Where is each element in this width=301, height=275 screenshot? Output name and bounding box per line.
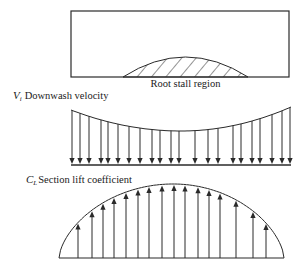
wing-distribution-diagram: Root stall region ViDownwash velocity CL… [0, 0, 301, 275]
arrow-head-down-icon [98, 158, 103, 164]
lift-subscript: L [32, 179, 37, 187]
lift-title: CLSection lift coefficient [26, 173, 132, 187]
lift-arrow [195, 187, 200, 258]
lift-arrow [233, 201, 238, 258]
arrow-head-down-icon [287, 158, 292, 164]
arrow-head-up-icon [206, 190, 211, 196]
arrow-head-up-icon [111, 198, 116, 204]
arrow-head-up-icon [135, 189, 140, 195]
downwash-arrow [98, 120, 103, 164]
arrow-head-up-icon [146, 187, 151, 193]
arrow-head-down-icon [192, 158, 197, 164]
arrow-head-down-icon [249, 158, 254, 164]
arrow-head-down-icon [126, 158, 131, 164]
arrow-head-down-icon [115, 158, 120, 164]
lift-arrows [75, 185, 268, 258]
lift-arrow [263, 224, 268, 258]
downwash-arrow [77, 113, 82, 164]
root-stall-region-label: Root stall region [151, 78, 222, 89]
arrow-head-down-icon [176, 158, 181, 164]
wing-planform: Root stall region [71, 11, 289, 89]
downwash-arrow [230, 126, 235, 164]
arrow-head-up-icon [182, 186, 187, 192]
downwash-arrow [69, 110, 74, 164]
lift-arrow [159, 185, 164, 258]
downwash-arrow [238, 124, 243, 164]
lift-distribution: CLSection lift coefficient [26, 173, 284, 258]
arrow-head-down-icon [69, 158, 74, 164]
downwash-label: Downwash velocity [25, 90, 109, 101]
arrow-head-down-icon [86, 158, 91, 164]
lift-coefficient-curve [59, 184, 284, 258]
lift-arrow [135, 189, 140, 258]
downwash-title: ViDownwash velocity [13, 89, 109, 103]
downwash-arrow [126, 126, 131, 164]
lift-arrow [217, 194, 222, 258]
arrow-head-down-icon [269, 158, 274, 164]
arrow-head-up-icon [233, 201, 238, 207]
arrow-head-up-icon [171, 185, 176, 191]
lift-arrow [111, 198, 116, 258]
lift-arrow [75, 224, 80, 258]
root-stall-region-hatched [123, 57, 248, 77]
downwash-arrow [137, 128, 142, 164]
arrow-head-down-icon [105, 158, 110, 164]
arrow-head-down-icon [149, 158, 154, 164]
lift-arrow [206, 190, 211, 258]
downwash-arrow [115, 124, 120, 164]
downwash-arrow [205, 130, 210, 164]
lift-arrow [89, 211, 94, 258]
downwash-arrows [69, 107, 292, 164]
downwash-arrow [168, 131, 173, 164]
downwash-distribution: ViDownwash velocity [13, 89, 293, 165]
lift-arrow [182, 186, 187, 258]
downwash-subscript: i [20, 95, 22, 103]
lift-arrow [250, 212, 255, 258]
lift-arrow [146, 187, 151, 258]
arrow-head-down-icon [205, 158, 210, 164]
lift-label: Section lift coefficient [38, 174, 132, 185]
downwash-arrow [279, 111, 284, 164]
downwash-arrow [215, 128, 220, 164]
arrow-head-down-icon [168, 158, 173, 164]
downwash-arrow [176, 131, 181, 164]
downwash-arrow [249, 121, 254, 164]
downwash-arrow [287, 107, 292, 164]
lift-arrow [171, 185, 176, 258]
downwash-arrow [157, 130, 162, 164]
arrow-head-down-icon [230, 158, 235, 164]
downwash-arrow [86, 116, 91, 164]
arrow-head-down-icon [279, 158, 284, 164]
arrow-head-down-icon [137, 158, 142, 164]
arrow-head-up-icon [159, 185, 164, 191]
downwash-arrow [257, 119, 262, 164]
arrow-head-up-icon [100, 204, 105, 210]
lift-arrow [123, 193, 128, 258]
downwash-arrow [192, 131, 197, 164]
downwash-arrow [269, 115, 274, 164]
arrow-head-up-icon [123, 193, 128, 199]
arrow-head-up-icon [217, 194, 222, 200]
arrow-head-down-icon [257, 158, 262, 164]
downwash-arrow [149, 130, 154, 164]
arrow-head-down-icon [77, 158, 82, 164]
arrow-head-down-icon [157, 158, 162, 164]
arrow-head-down-icon [215, 158, 220, 164]
downwash-arrow [105, 122, 110, 164]
downwash-curve [71, 107, 291, 131]
arrow-head-down-icon [238, 158, 243, 164]
lift-arrow [100, 204, 105, 258]
arrow-head-up-icon [195, 187, 200, 193]
